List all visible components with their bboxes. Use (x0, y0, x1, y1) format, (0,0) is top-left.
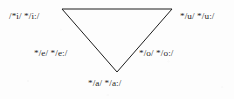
vowel-label-mid-back: */o/ */o:/ (139, 49, 173, 58)
vowel-label-mid-front: */e/ */e:/ (34, 49, 67, 58)
triangle-outline (62, 9, 172, 72)
vowel-label-high-front: /*i/ */i:/ (9, 12, 39, 21)
vowel-label-high-back: */u/ */u:/ (180, 12, 214, 21)
vowel-triangle-figure: /*i/ */i:/ */u/ */u:/ */e/ */e:/ */o/ */… (0, 0, 234, 99)
vowel-label-low-central: */a/ */a:/ (88, 79, 121, 88)
